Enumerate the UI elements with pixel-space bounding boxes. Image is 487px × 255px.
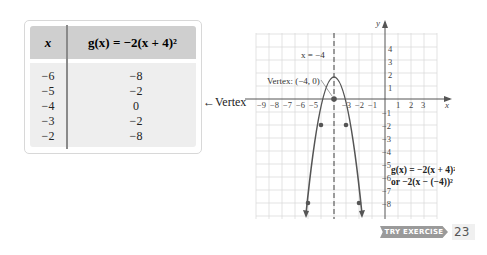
- svg-text:3: 3: [421, 100, 425, 110]
- table-row: −2−8: [30, 129, 196, 144]
- header-gx: g(x) = −2(x + 4)²: [69, 26, 196, 59]
- svg-text:−2: −2: [382, 121, 391, 131]
- svg-text:4: 4: [388, 44, 393, 54]
- y-axis-arrow-icon: [382, 20, 388, 28]
- svg-text:−5: −5: [382, 160, 391, 170]
- axis-of-symmetry-label: x = −4: [301, 50, 325, 60]
- svg-text:−3: −3: [342, 100, 351, 110]
- vertex-leader-line: [321, 80, 332, 96]
- svg-text:−8: −8: [382, 199, 391, 209]
- svg-text:−2: −2: [355, 100, 364, 110]
- svg-text:1: 1: [396, 100, 400, 110]
- table-row: −6−8: [30, 69, 196, 84]
- vertex-label: Vertex: (−4, 0): [267, 76, 320, 86]
- svg-text:y: y: [375, 18, 380, 28]
- equation-label: g(x) = −2(x + 4)²: [391, 165, 455, 176]
- vertex-arrow-label: ←Vertex: [203, 95, 246, 110]
- svg-text:1: 1: [388, 83, 392, 93]
- header-x: x: [30, 26, 66, 59]
- table-row: −40: [30, 99, 196, 114]
- svg-text:2: 2: [388, 70, 392, 80]
- svg-text:−5: −5: [309, 100, 318, 110]
- svg-text:−7: −7: [382, 186, 391, 196]
- svg-text:−1: −1: [368, 100, 377, 110]
- parabola-graph: −9−8−7−6−5 −3−2−1 123 4321 −1−2−3−4 −5−6…: [245, 18, 455, 228]
- svg-text:−6: −6: [382, 173, 391, 183]
- table-row: −3−2: [30, 114, 196, 129]
- values-table: x g(x) = −2(x + 4)² −6−8 −5−2 −40 −3−2 −…: [24, 20, 202, 154]
- svg-text:−7: −7: [283, 100, 292, 110]
- svg-text:−9: −9: [257, 100, 266, 110]
- table-row: −5−2: [30, 84, 196, 99]
- svg-text:−4: −4: [382, 147, 392, 157]
- svg-text:−1: −1: [382, 108, 391, 118]
- svg-text:−6: −6: [296, 100, 305, 110]
- svg-text:3: 3: [388, 57, 392, 67]
- svg-text:−3: −3: [382, 134, 391, 144]
- svg-text:2: 2: [409, 100, 413, 110]
- exercise-number[interactable]: 23: [452, 224, 475, 240]
- try-exercise-badge[interactable]: TRY EXERCISE: [380, 226, 448, 238]
- svg-text:−8: −8: [270, 100, 279, 110]
- svg-text:x: x: [444, 100, 449, 110]
- equation-alt-label: or −2(x − (−4))²: [391, 177, 453, 188]
- curve-arrow-right-icon: [359, 210, 365, 218]
